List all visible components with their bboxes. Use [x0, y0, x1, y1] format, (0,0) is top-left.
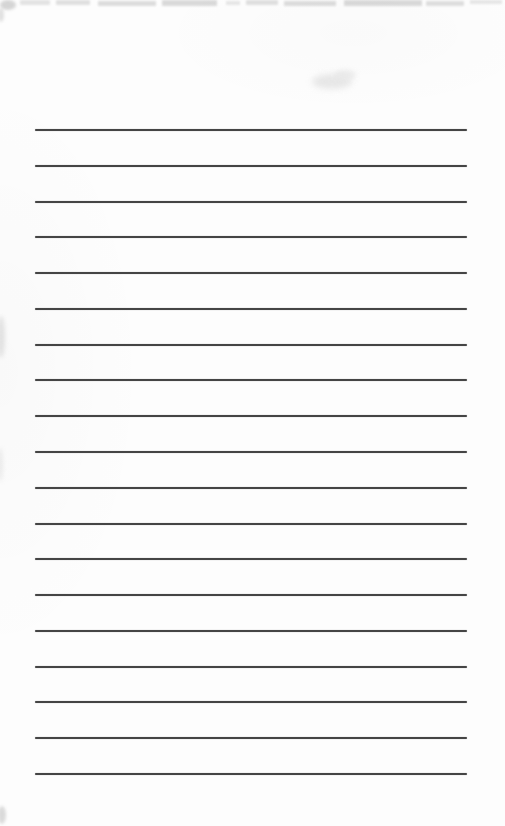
- rule-line: [35, 201, 467, 203]
- rule-line: [35, 594, 467, 596]
- rule-line: [35, 773, 467, 775]
- rule-line: [35, 379, 467, 381]
- ruled-lines: [0, 0, 505, 826]
- rule-line: [35, 737, 467, 739]
- rule-line: [35, 308, 467, 310]
- rule-line: [35, 236, 467, 238]
- rule-line: [35, 558, 467, 560]
- rule-line: [35, 344, 467, 346]
- rule-line: [35, 523, 467, 525]
- rule-line: [35, 451, 467, 453]
- rule-line: [35, 487, 467, 489]
- rule-line: [35, 630, 467, 632]
- rule-line: [35, 129, 467, 131]
- rule-line: [35, 165, 467, 167]
- rule-line: [35, 666, 467, 668]
- notebook-page: [0, 0, 505, 826]
- rule-line: [35, 701, 467, 703]
- rule-line: [35, 272, 467, 274]
- rule-line: [35, 415, 467, 417]
